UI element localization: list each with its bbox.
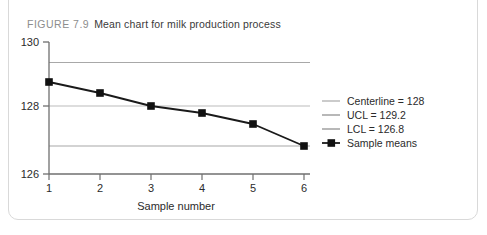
x-tick-label-1: 1 [46,182,52,194]
legend-label: Sample means [347,137,417,149]
y-tick-label-126: 126 [21,168,39,180]
mean-control-chart: 130 128 126 1 2 3 4 5 6 Sample number [0,0,487,235]
x-tick-label-5: 5 [250,182,256,194]
x-tick-label-2: 2 [97,182,103,194]
chart-legend: Centerline = 128 UCL = 129.2 LCL = 126.8… [322,95,425,149]
legend-label: Centerline = 128 [347,95,425,107]
sample-means-line [49,82,304,146]
figure-card: FIGURE 7.9Mean chart for milk production… [0,0,487,235]
data-point-marker [198,109,206,117]
legend-item-lcl: LCL = 126.8 [322,123,404,135]
x-tick-label-4: 4 [199,182,205,194]
legend-label: UCL = 129.2 [347,109,406,121]
y-tick-label-128: 128 [21,100,39,112]
legend-item-ucl: UCL = 129.2 [322,109,406,121]
y-tick-label-130: 130 [21,36,39,48]
data-point-marker [249,120,257,128]
x-axis-title: Sample number [137,200,215,212]
data-point-marker [96,89,104,97]
legend-item-centerline: Centerline = 128 [322,95,425,107]
data-point-marker [300,142,308,150]
legend-label: LCL = 126.8 [347,123,404,135]
chart-plot-area: 130 128 126 1 2 3 4 5 6 Sample number [0,0,487,235]
data-point-marker [45,78,53,86]
legend-swatch-marker [328,139,336,147]
data-point-marker [147,102,155,110]
legend-item-sample-means: Sample means [322,137,417,149]
x-tick-label-3: 3 [148,182,154,194]
x-tick-label-6: 6 [301,182,307,194]
